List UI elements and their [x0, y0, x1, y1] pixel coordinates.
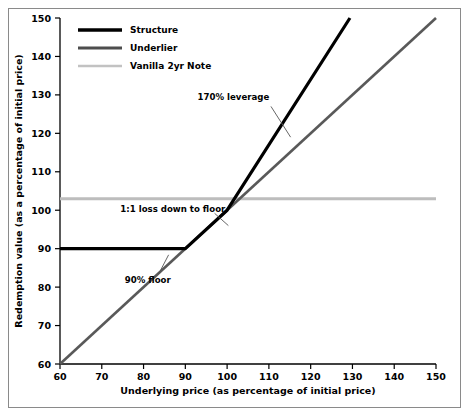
y-axis-ticks: 60708090100110120130140150: [31, 13, 60, 370]
x-tick-label: 110: [259, 371, 279, 382]
x-tick-label: 140: [384, 371, 404, 382]
y-tick-label: 60: [38, 359, 52, 370]
y-tick-label: 120: [31, 128, 51, 139]
x-tick-label: 120: [301, 371, 321, 382]
y-tick-label: 110: [31, 166, 51, 177]
y-tick-label: 70: [38, 320, 52, 331]
x-tick-label: 90: [179, 371, 193, 382]
annotation-label-1-1-loss-down-to-floor: 1:1 loss down to floor: [120, 204, 226, 214]
x-tick-label: 130: [343, 371, 363, 382]
y-tick-label: 150: [31, 13, 51, 24]
legend-label-vanilla-2yr-note: Vanilla 2yr Note: [130, 61, 211, 71]
x-tick-label: 70: [95, 371, 109, 382]
y-tick-label: 130: [31, 89, 51, 100]
x-tick-label: 60: [53, 371, 67, 382]
annotation-label-90-floor: 90% floor: [125, 275, 172, 285]
legend-label-structure: Structure: [130, 25, 178, 35]
x-axis-ticks: 60708090100110120130140150: [53, 364, 446, 382]
x-tick-label: 100: [217, 371, 237, 382]
chart-figure: 60708090100110120130140150 6070809010011…: [0, 0, 469, 416]
redemption-payoff-chart: 60708090100110120130140150 6070809010011…: [0, 0, 469, 416]
y-tick-label: 140: [31, 51, 51, 62]
y-tick-label: 90: [38, 243, 52, 254]
x-tick-label: 150: [426, 371, 446, 382]
x-tick-label: 80: [137, 371, 151, 382]
legend-label-underlier: Underlier: [130, 43, 178, 53]
y-axis-title: Redemption value (as a percentage of ini…: [13, 54, 24, 327]
x-axis-title: Underlying price (as percentage of initi…: [120, 385, 375, 396]
y-tick-label: 100: [31, 205, 51, 216]
y-tick-label: 80: [38, 282, 52, 293]
annotation-label-170-leverage: 170% leverage: [197, 92, 269, 102]
